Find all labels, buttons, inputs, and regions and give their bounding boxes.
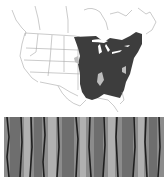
species-range [74,32,142,100]
bark-photo [4,117,164,177]
range-map [0,0,168,112]
bark-texture [4,117,164,177]
